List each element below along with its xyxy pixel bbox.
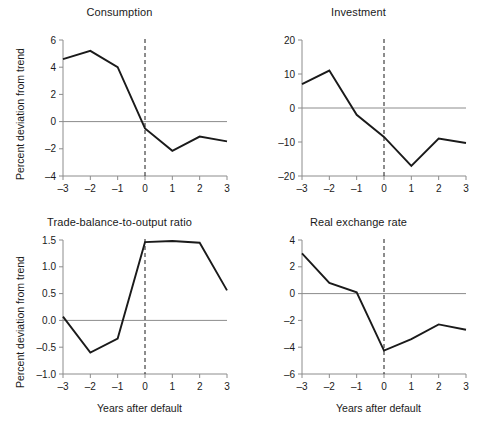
y-tick-label: –2: [45, 143, 57, 154]
y-tick-label: 4: [50, 62, 56, 73]
x-tick-label: –3: [57, 183, 69, 194]
x-tick-label: 2: [197, 381, 203, 392]
x-tick-label: –3: [296, 183, 308, 194]
x-tick-label: –1: [112, 381, 124, 392]
y-tick-label: 2: [50, 89, 56, 100]
plot-area-consumption: –4–20246–3–2–10123: [0, 0, 239, 215]
y-tick-label: 0: [50, 116, 56, 127]
panel-trade-balance: Trade-balance-to-output ratio Percent de…: [0, 210, 239, 425]
x-tick-label: 3: [463, 183, 469, 194]
plot-area-trade-balance: –1.0–0.50.00.51.01.5–3–2–10123: [0, 210, 239, 425]
y-tick-label: –10: [278, 137, 295, 148]
x-tick-label: –2: [85, 381, 97, 392]
x-tick-label: 1: [170, 183, 176, 194]
plot-area-real-exchange-rate: –6–4–2024–3–2–10123: [239, 210, 478, 425]
y-tick-label: 4: [289, 235, 295, 246]
x-tick-label: –3: [296, 381, 308, 392]
y-tick-label: –4: [284, 342, 296, 353]
y-tick-label: –2: [284, 315, 296, 326]
y-tick-label: –1.0: [37, 369, 57, 380]
y-tick-label: 1.0: [42, 261, 56, 272]
y-tick-label: 20: [284, 35, 296, 46]
panel-real-exchange-rate: Real exchange rate Years after default –…: [239, 210, 478, 425]
x-tick-label: 3: [463, 381, 469, 392]
y-tick-label: 2: [289, 261, 295, 272]
y-tick-label: 0: [289, 103, 295, 114]
panel-investment: Investment –20–1001020–3–2–10123: [239, 0, 478, 215]
y-tick-label: –4: [45, 171, 57, 182]
x-tick-label: 2: [436, 381, 442, 392]
x-tick-label: –1: [351, 183, 363, 194]
x-tick-label: 3: [224, 381, 230, 392]
four-panel-line-chart-figure: Consumption Percent deviation from trend…: [0, 0, 478, 430]
y-tick-label: 0.0: [42, 315, 56, 326]
x-tick-label: 0: [142, 183, 148, 194]
x-tick-label: 3: [224, 183, 230, 194]
x-tick-label: –2: [324, 381, 336, 392]
x-tick-label: –1: [112, 183, 124, 194]
x-tick-label: –3: [57, 381, 69, 392]
panel-consumption: Consumption Percent deviation from trend…: [0, 0, 239, 215]
x-tick-label: –2: [85, 183, 97, 194]
y-tick-label: –6: [284, 369, 296, 380]
x-tick-label: 1: [409, 381, 415, 392]
y-tick-label: –0.5: [37, 342, 57, 353]
plot-area-investment: –20–1001020–3–2–10123: [239, 0, 478, 215]
x-tick-label: –2: [324, 183, 336, 194]
x-tick-label: 0: [142, 381, 148, 392]
y-tick-label: 0.5: [42, 288, 56, 299]
x-tick-label: –1: [351, 381, 363, 392]
y-tick-label: 0: [289, 288, 295, 299]
x-tick-label: 1: [409, 183, 415, 194]
x-tick-label: 2: [197, 183, 203, 194]
x-tick-label: 2: [436, 183, 442, 194]
data-series-line: [63, 51, 227, 151]
x-tick-label: 1: [170, 381, 176, 392]
y-tick-label: 1.5: [42, 235, 56, 246]
y-tick-label: 10: [284, 69, 296, 80]
x-tick-label: 0: [381, 381, 387, 392]
y-tick-label: –20: [278, 171, 295, 182]
y-tick-label: 6: [50, 35, 56, 46]
x-tick-label: 0: [381, 183, 387, 194]
